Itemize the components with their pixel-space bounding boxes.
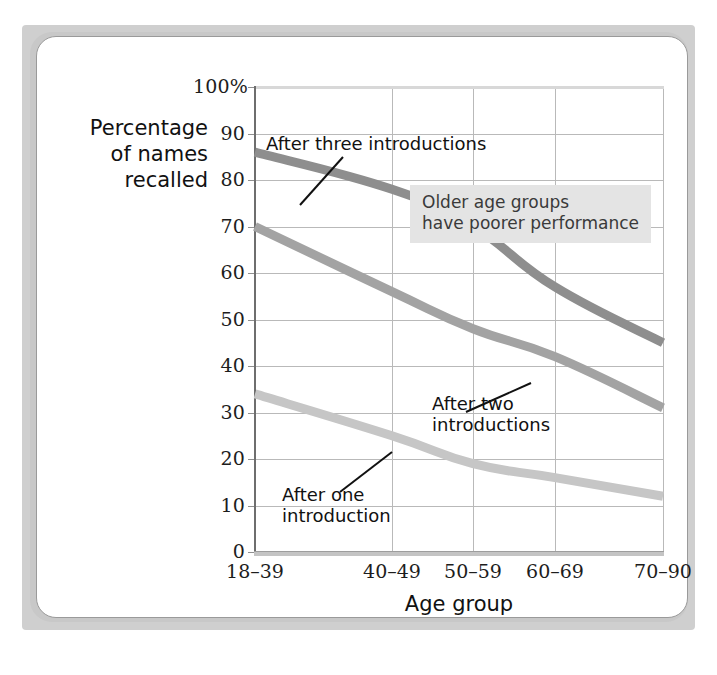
y-tick-label: 50 — [193, 308, 245, 330]
x-tick-label: 18–39 — [210, 560, 300, 582]
y-tick-label: 60 — [193, 261, 245, 283]
gridline-vertical — [392, 87, 393, 552]
gridline-horizontal — [255, 459, 663, 460]
gridline-horizontal — [255, 366, 663, 367]
y-tick-label: 40 — [193, 354, 245, 376]
annotation-after-one-introduction: After one introduction — [282, 484, 391, 526]
x-tick-label: 70–90 — [618, 560, 708, 582]
y-tick-label: 10 — [193, 494, 245, 516]
x-tick-label: 40–49 — [347, 560, 437, 582]
annotation-after-two-line-1: After two — [432, 393, 550, 414]
y-axis-title-line-1: Percentage — [60, 115, 208, 141]
y-tick-label: 70 — [193, 215, 245, 237]
annotation-after-two-introductions: After two introductions — [432, 393, 550, 435]
annotation-after-three-introductions: After three introductions — [266, 133, 486, 154]
annotation-after-one-line-1: After one — [282, 484, 391, 505]
gridline-vertical — [663, 87, 664, 552]
y-tick-label: 100% — [193, 75, 245, 97]
annotation-after-one-line-2: introduction — [282, 505, 391, 526]
callout-older-age-groups: Older age groups have poorer performance — [410, 185, 651, 243]
x-axis-line — [254, 551, 664, 552]
y-axis-title: Percentage of names recalled — [60, 115, 208, 193]
x-tick-label: 50–59 — [428, 560, 518, 582]
callout-line-1: Older age groups — [422, 192, 639, 213]
y-axis-title-line-2: of names — [60, 141, 208, 167]
gridline-horizontal — [255, 180, 663, 181]
y-tick-label: 0 — [193, 540, 245, 562]
y-tick-label: 20 — [193, 447, 245, 469]
gridline-horizontal — [255, 320, 663, 321]
gridline-horizontal — [255, 273, 663, 274]
x-axis-title: Age group — [255, 592, 663, 616]
y-axis-line — [254, 86, 256, 553]
y-tick-label: 30 — [193, 401, 245, 423]
gridline-vertical — [555, 87, 556, 552]
y-axis-title-line-3: recalled — [60, 167, 208, 193]
gridline-vertical — [473, 87, 474, 552]
x-tick-label: 60–69 — [510, 560, 600, 582]
chart: 0102030405060708090100% 18–3940–4950–596… — [0, 0, 717, 675]
annotation-after-two-line-2: introductions — [432, 414, 550, 435]
callout-line-2: have poorer performance — [422, 213, 639, 234]
figure-root: 0102030405060708090100% 18–3940–4950–596… — [0, 0, 717, 675]
plot-top-edge — [254, 86, 664, 89]
